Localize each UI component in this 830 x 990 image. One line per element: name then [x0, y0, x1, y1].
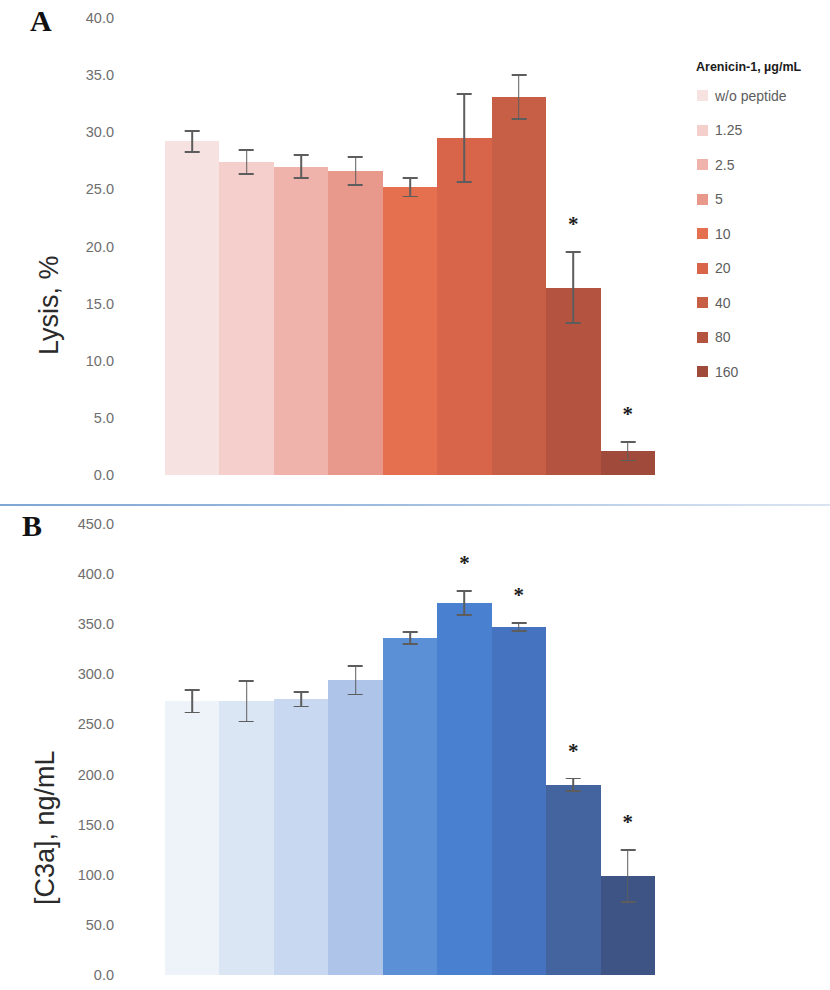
panel-b-tick-label: 450.0 [78, 517, 114, 532]
error-bar-cap-top [402, 177, 417, 179]
error-bar-cap-bottom [348, 184, 363, 186]
legend-item[interactable]: 2.5 [697, 157, 801, 172]
bar-group[interactable] [492, 18, 546, 475]
error-bar [246, 680, 248, 722]
bar-group[interactable] [219, 18, 273, 475]
legend-item[interactable]: 1.25 [697, 123, 801, 138]
legend-item[interactable]: 80 [697, 330, 801, 345]
bar[interactable] [219, 701, 273, 975]
panel-b-tick-label: 300.0 [78, 667, 114, 682]
bar-group[interactable]: * [546, 524, 600, 975]
bar[interactable] [274, 167, 328, 475]
bar-group[interactable] [383, 524, 437, 975]
legend-item[interactable]: 20 [697, 261, 801, 276]
bar-group[interactable]: * [601, 18, 655, 475]
panel-b: B [C3a], ng/mL 450.0400.0350.0300.0250.0… [0, 505, 830, 990]
bar-group[interactable] [165, 18, 219, 475]
panel-a-tick-label: 20.0 [86, 240, 114, 255]
bar-group[interactable] [328, 18, 382, 475]
legend-swatch-icon [697, 159, 708, 170]
legend-item-label: 80 [715, 329, 731, 345]
legend-item[interactable]: 10 [697, 226, 801, 241]
error-bar [518, 74, 520, 120]
bar-group[interactable] [328, 524, 382, 975]
panel-a-tick-label: 0.0 [94, 468, 114, 483]
bar-group[interactable] [437, 18, 491, 475]
legend-item[interactable]: 40 [697, 295, 801, 310]
panel-a-tick-label: 35.0 [86, 68, 114, 83]
bar[interactable] [492, 97, 546, 475]
legend-item-label: 2.5 [715, 157, 734, 173]
panel-b-tick-label: 100.0 [78, 868, 114, 883]
error-bar [409, 631, 411, 645]
panel-a-legend-title: Arenicin-1, µg/mL [696, 60, 801, 74]
bar[interactable] [219, 162, 273, 475]
bar-group[interactable] [383, 18, 437, 475]
error-bar [246, 149, 248, 174]
bar-group[interactable]: * [546, 18, 600, 475]
bar[interactable] [274, 699, 328, 975]
legend-item[interactable]: w/o peptide [697, 88, 801, 103]
significance-marker: * [568, 214, 579, 235]
legend-swatch-icon [697, 125, 708, 136]
legend-item[interactable]: 160 [697, 364, 801, 379]
bar[interactable] [492, 627, 546, 975]
panel-b-tick-label: 150.0 [78, 818, 114, 833]
bar[interactable] [328, 171, 382, 475]
panel-a: A Lysis, % 40.035.030.025.020.015.010.05… [0, 0, 830, 500]
bar[interactable] [383, 638, 437, 975]
error-bar [191, 689, 193, 713]
bar[interactable] [383, 187, 437, 475]
legend-item-label: 10 [715, 226, 731, 242]
error-bar-cap-bottom [348, 694, 363, 696]
error-bar-cap-bottom [239, 173, 254, 175]
legend-swatch-icon [697, 366, 708, 377]
error-bar-cap-bottom [566, 322, 581, 324]
significance-marker: * [568, 741, 579, 762]
bar-group[interactable] [274, 524, 328, 975]
error-bar-cap-bottom [239, 721, 254, 723]
error-bar [300, 154, 302, 179]
bar[interactable] [437, 603, 491, 975]
error-bar [300, 691, 302, 707]
bar-group[interactable] [165, 524, 219, 975]
significance-marker: * [622, 404, 633, 425]
panel-a-tick-label: 10.0 [86, 354, 114, 369]
bar[interactable] [546, 785, 600, 975]
error-bar-cap-top [294, 691, 309, 693]
panel-a-tick-label: 40.0 [86, 11, 114, 26]
bar[interactable] [437, 138, 491, 475]
error-bar-cap-bottom [511, 630, 526, 632]
legend-swatch-icon [697, 263, 708, 274]
legend-swatch-icon [697, 297, 708, 308]
panel-b-tick-label: 250.0 [78, 717, 114, 732]
panel-b-y-axis-title: [C3a], ng/mL [30, 750, 61, 905]
panel-a-tick-label: 5.0 [94, 411, 114, 426]
error-bar-cap-bottom [402, 196, 417, 198]
error-bar-cap-top [457, 93, 472, 95]
error-bar [572, 778, 574, 792]
error-bar-cap-top [239, 680, 254, 682]
panel-a-tick-label: 25.0 [86, 182, 114, 197]
bar[interactable] [165, 701, 219, 975]
error-bar [191, 130, 193, 153]
bar-group[interactable] [274, 18, 328, 475]
legend-item[interactable]: 5 [697, 192, 801, 207]
significance-marker: * [459, 553, 470, 574]
bar-group[interactable] [219, 524, 273, 975]
error-bar-cap-top [620, 849, 635, 851]
panel-b-letter: B [22, 511, 42, 541]
panel-a-legend: Arenicin-1, µg/mL w/o peptide1.252.55102… [697, 60, 801, 399]
panel-b-plot-area: **** [165, 524, 655, 975]
bar[interactable] [165, 141, 219, 475]
bar[interactable] [328, 680, 382, 975]
error-bar [627, 441, 629, 462]
legend-swatch-icon [697, 332, 708, 343]
bar-group[interactable]: * [492, 524, 546, 975]
significance-marker: * [622, 812, 633, 833]
error-bar-cap-top [566, 251, 581, 253]
bar-group[interactable]: * [437, 524, 491, 975]
error-bar-cap-top [457, 590, 472, 592]
bar-group[interactable]: * [601, 524, 655, 975]
error-bar [464, 93, 466, 182]
